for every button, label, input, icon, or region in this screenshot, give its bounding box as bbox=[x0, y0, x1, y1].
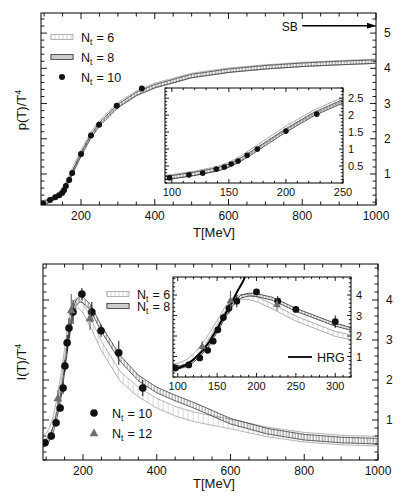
legend-item: Nt= 8 bbox=[51, 51, 114, 67]
x-tick-label: 100 bbox=[169, 380, 187, 392]
x-tick-label: 150 bbox=[220, 186, 238, 198]
legend-label: Nt= 12 bbox=[112, 427, 152, 443]
legend: Nt= 6Nt= 8Nt= 10Nt= 12 bbox=[90, 288, 171, 443]
data-point bbox=[200, 170, 206, 176]
y-tick-label: 3 bbox=[356, 310, 362, 322]
data-point bbox=[186, 172, 192, 178]
figure: SB200400600800100012345T[MeV]p(T)/T4Nt= … bbox=[0, 0, 404, 500]
legend-marker-circle bbox=[59, 74, 65, 80]
data-point bbox=[139, 384, 147, 392]
data-point bbox=[228, 161, 234, 167]
x-tick-label: 250 bbox=[334, 186, 352, 198]
y-tick-label: 2.5 bbox=[348, 92, 363, 104]
x-tick-label: 1000 bbox=[365, 464, 392, 478]
x-tick-label: 400 bbox=[145, 209, 165, 223]
legend-label: Nt= 10 bbox=[81, 71, 121, 87]
data-point bbox=[220, 314, 227, 321]
data-point bbox=[332, 318, 339, 325]
data-point bbox=[115, 349, 123, 357]
x-tick-label: 1000 bbox=[363, 209, 390, 223]
sb-annotation: SB bbox=[282, 20, 376, 34]
legend-label: Nt= 6 bbox=[81, 31, 114, 47]
data-point bbox=[88, 133, 94, 139]
data-point bbox=[292, 306, 299, 313]
x-tick-label: 800 bbox=[292, 209, 312, 223]
inset-background bbox=[165, 88, 343, 183]
legend-swatch-nt8-band bbox=[51, 55, 73, 60]
y-tick-label: 2 bbox=[384, 132, 391, 146]
x-tick-label: 400 bbox=[147, 464, 167, 478]
x-tick-label: 600 bbox=[218, 209, 238, 223]
pressure-inset: 1001502002500.511.522.5 bbox=[163, 88, 364, 198]
y-axis-title: p(T)/T4 bbox=[13, 90, 29, 130]
x-tick-label: 200 bbox=[247, 380, 265, 392]
data-point bbox=[314, 111, 320, 117]
data-point bbox=[214, 326, 221, 333]
y-tick-label: 0.5 bbox=[348, 160, 363, 172]
data-point bbox=[210, 338, 217, 345]
legend-item: Nt= 10 bbox=[90, 407, 152, 423]
y-tick-label: 1.5 bbox=[348, 126, 363, 138]
data-point bbox=[41, 439, 49, 447]
legend-item: Nt= 8 bbox=[107, 300, 170, 316]
legend-item: Nt= 6 bbox=[51, 31, 114, 47]
interaction-inset: 1001502002503001234HRG bbox=[169, 273, 363, 392]
data-point bbox=[139, 85, 145, 91]
x-tick-label: 200 bbox=[71, 209, 91, 223]
y-tick-label: 5 bbox=[384, 26, 391, 40]
x-axis-title: T[MeV] bbox=[193, 225, 235, 240]
x-tick-label: 200 bbox=[73, 464, 93, 478]
legend-swatch-nt8-band bbox=[107, 304, 129, 309]
legend-swatch-nt6-band bbox=[107, 292, 129, 297]
x-tick-label: 150 bbox=[208, 380, 226, 392]
data-point bbox=[63, 339, 71, 347]
data-point bbox=[47, 197, 53, 203]
legend-item: Nt= 12 bbox=[90, 427, 153, 443]
x-tick-label: 250 bbox=[287, 380, 305, 392]
data-point bbox=[97, 327, 105, 335]
x-tick-label: 800 bbox=[294, 464, 314, 478]
series-points-circle bbox=[40, 85, 145, 206]
legend-marker-circle bbox=[90, 409, 98, 417]
data-point bbox=[47, 432, 55, 440]
y-tick-label: 4 bbox=[386, 293, 393, 307]
legend: Nt= 6Nt= 8Nt= 10 bbox=[51, 31, 121, 87]
data-point bbox=[214, 166, 220, 172]
legend-label: HRG bbox=[317, 351, 345, 365]
data-point bbox=[233, 298, 240, 305]
sb-label: SB bbox=[282, 20, 298, 34]
data-point bbox=[59, 384, 67, 392]
x-tick-label: 100 bbox=[163, 186, 181, 198]
legend-marker-triangle bbox=[90, 428, 99, 436]
y-tick-label: 4 bbox=[356, 289, 362, 301]
data-point bbox=[255, 146, 261, 152]
y-tick-label: 3 bbox=[386, 333, 393, 347]
y-tick-label: 2 bbox=[356, 330, 362, 342]
data-point bbox=[78, 151, 84, 157]
legend-label: Nt= 10 bbox=[112, 407, 152, 423]
data-point bbox=[52, 419, 60, 427]
y-tick-label: 4 bbox=[384, 61, 391, 75]
data-point bbox=[88, 308, 96, 316]
data-point bbox=[235, 158, 241, 164]
data-point bbox=[253, 289, 260, 296]
data-point bbox=[196, 355, 203, 362]
x-tick-label: 200 bbox=[277, 186, 295, 198]
y-tick-label: 1 bbox=[384, 167, 391, 181]
legend-label: Nt= 8 bbox=[137, 300, 170, 316]
data-point bbox=[222, 164, 228, 170]
data-point bbox=[66, 177, 72, 183]
x-axis-title: T[MeV] bbox=[193, 476, 235, 491]
data-point bbox=[283, 128, 289, 134]
data-point bbox=[114, 103, 120, 109]
data-point bbox=[226, 305, 233, 312]
data-point bbox=[244, 152, 250, 158]
data-point bbox=[96, 122, 102, 128]
y-tick-label: 1 bbox=[348, 143, 354, 155]
y-tick-label: 3 bbox=[384, 97, 391, 111]
legend-swatch-nt6-band bbox=[51, 35, 73, 40]
y-tick-label: 2 bbox=[348, 109, 354, 121]
data-point bbox=[185, 362, 192, 369]
y-tick-label: 2 bbox=[386, 373, 393, 387]
data-point bbox=[78, 290, 86, 298]
